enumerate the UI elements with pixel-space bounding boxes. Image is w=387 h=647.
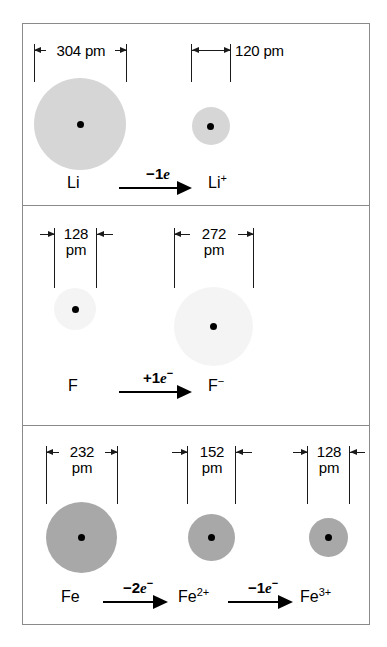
label-li-plus: Li+ — [208, 175, 227, 191]
arrow-shaft — [228, 601, 282, 603]
dimension-label-f: 128 pm — [55, 226, 97, 258]
arrow-shaft — [103, 601, 157, 603]
nucleus-dot — [208, 534, 215, 541]
condition-count: 1 — [155, 165, 163, 182]
dimension-arrow-left — [97, 231, 104, 237]
label-f: F — [68, 378, 78, 394]
dimension-unit: pm — [59, 460, 105, 476]
species-li-plus: 120 pm — [183, 24, 333, 184]
dimension-label-fe: 232 pm — [59, 444, 105, 476]
condition-count: 1 — [152, 369, 160, 386]
condition-particle: e — [160, 370, 167, 386]
condition-sign: + — [143, 369, 152, 386]
label-fe3plus-text: Fe — [300, 588, 319, 605]
arrow-head — [177, 181, 192, 195]
dimension-value: 152 — [200, 443, 224, 460]
label-fe: Fe — [61, 589, 80, 605]
reaction-arrow-fe-to-fe2plus: −2e− — [103, 566, 173, 606]
panel-iron: 232 pm 152 pm — [23, 426, 369, 626]
condition-sign: − — [248, 579, 257, 596]
label-fe2plus-charge: 2+ — [197, 586, 210, 598]
dimension-arrow-left — [236, 449, 243, 455]
reaction-arrow-li: −1e — [119, 152, 197, 192]
dimension-label-li-plus: 120 pm — [235, 43, 315, 58]
dimension-arrow-left — [46, 449, 53, 455]
reaction-condition-fe2plus: −2e− — [123, 579, 153, 597]
label-li: Li — [67, 175, 79, 191]
dimension-arrow-right — [111, 449, 118, 455]
panel-lithium: 304 pm 120 pm Li Li+ −1e — [23, 24, 369, 206]
panel-fluorine: 128 pm 272 pm F F− — [23, 206, 369, 426]
dimension-arrow-right — [301, 449, 308, 455]
label-fe3plus: Fe3+ — [300, 589, 331, 605]
extension-line-left — [174, 228, 175, 288]
dimension-unit: pm — [55, 242, 97, 258]
condition-superscript: − — [272, 577, 278, 589]
arrow-head — [278, 595, 293, 609]
dimension-label-li: 304 pm — [41, 43, 121, 58]
condition-particle: e — [265, 580, 272, 596]
label-li-text: Li — [67, 174, 79, 191]
dimension-unit: pm — [308, 460, 350, 476]
label-li-plus-charge: + — [220, 172, 226, 184]
dimension-unit: pm — [189, 460, 235, 476]
dimension-label-fe3plus: 128 pm — [308, 444, 350, 476]
dimension-value: 272 — [202, 225, 226, 242]
dimension-arrow-right — [247, 231, 254, 237]
condition-sign: − — [146, 165, 155, 182]
dimension-label-f-minus: 272 pm — [191, 226, 237, 258]
dimension-arrow-right — [181, 449, 188, 455]
condition-count: 1 — [257, 579, 265, 596]
dimension-arrow-left — [174, 231, 181, 237]
dimension-arrow-left — [350, 449, 357, 455]
dimension-arrow-right — [48, 231, 55, 237]
dimension-value: 128 — [64, 225, 88, 242]
condition-superscript: − — [147, 577, 153, 589]
dimension-arrow-right — [224, 47, 231, 53]
dimension-arrow-left — [192, 47, 199, 53]
dimension-arrow-right — [120, 47, 127, 53]
reaction-arrow-f: +1e− — [119, 356, 197, 396]
arrow-shaft — [119, 187, 181, 189]
nucleus-dot — [210, 323, 217, 330]
label-fe3plus-charge: 3+ — [319, 586, 332, 598]
condition-sign: − — [123, 579, 132, 596]
nucleus-dot — [207, 123, 214, 130]
label-li-plus-text: Li — [208, 174, 220, 191]
dimension-unit: pm — [191, 242, 237, 258]
nucleus-dot — [77, 121, 84, 128]
dimension-arrow-left — [34, 47, 41, 53]
reaction-condition-fe3plus: −1e− — [248, 579, 278, 597]
dimension-value: 232 — [70, 443, 94, 460]
reaction-condition-li: −1e — [146, 165, 170, 183]
dimension-label-fe2plus: 152 pm — [189, 444, 235, 476]
label-f-minus-text: F — [208, 377, 218, 394]
dimension-value: 128 — [317, 443, 341, 460]
condition-particle: e — [163, 166, 170, 182]
condition-superscript: − — [167, 367, 173, 379]
extension-line-right — [253, 228, 254, 288]
label-f-text: F — [68, 377, 78, 394]
nucleus-dot — [325, 534, 332, 541]
label-fe-text: Fe — [61, 588, 80, 605]
label-f-minus: F− — [208, 378, 224, 394]
condition-particle: e — [140, 580, 147, 596]
label-fe2plus: Fe2+ — [178, 589, 209, 605]
figure-frame: 304 pm 120 pm Li Li+ −1e — [22, 23, 370, 625]
label-f-minus-charge: − — [218, 375, 224, 387]
nucleus-dot — [78, 534, 85, 541]
nucleus-dot — [72, 306, 79, 313]
arrow-shaft — [119, 391, 181, 393]
reaction-condition-f: +1e− — [143, 369, 173, 387]
reaction-arrow-fe2plus-to-fe3plus: −1e− — [228, 566, 298, 606]
arrow-head — [153, 595, 168, 609]
arrow-head — [177, 385, 192, 399]
label-fe2plus-text: Fe — [178, 588, 197, 605]
condition-count: 2 — [132, 579, 140, 596]
